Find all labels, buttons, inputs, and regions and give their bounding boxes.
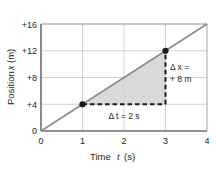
x-tick-label-3: 3: [163, 136, 168, 146]
y-tick-label-12: +12: [22, 46, 37, 56]
x-axis-title: Time t (s): [90, 151, 135, 162]
data-point-marker-2: [162, 48, 168, 54]
position-time-chart: +16 +12 +8 +4 0 0 1 2 3 4 Time t (s) Pos…: [0, 0, 216, 170]
y-axis-title-unit: (m): [5, 49, 16, 63]
delta-x-annotation-line2: + 8 m: [170, 74, 192, 84]
data-point-marker-1: [79, 101, 85, 107]
x-tick-label-2: 2: [121, 136, 126, 146]
y-axis-title: Position x (m): [5, 49, 16, 105]
x-tick-label-4: 4: [204, 136, 209, 146]
x-axis-title-prefix: Time: [90, 151, 111, 162]
delta-x-annotation-line1: Δ x =: [170, 62, 189, 72]
y-tick-label-8: +8: [27, 73, 37, 83]
x-tick-label-1: 1: [80, 136, 85, 146]
y-tick-label-0: 0: [32, 126, 37, 136]
x-axis-title-unit: (s): [124, 151, 135, 162]
delta-t-annotation: Δ t = 2 s: [109, 111, 140, 121]
y-axis-title-variable: x: [5, 65, 16, 71]
y-tick-label-16: +16: [22, 20, 37, 30]
caption-sliver: [4, 162, 212, 168]
x-axis-title-variable: t: [117, 151, 120, 162]
y-axis-title-prefix: Position: [5, 71, 16, 105]
figure-container: +16 +12 +8 +4 0 0 1 2 3 4 Time t (s) Pos…: [0, 0, 216, 170]
y-tick-label-4: +4: [27, 100, 37, 110]
x-tick-label-0: 0: [38, 136, 43, 146]
